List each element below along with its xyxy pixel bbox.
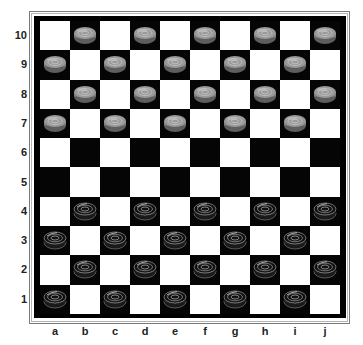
- black-piece-icon[interactable]: [103, 290, 127, 309]
- square-i9[interactable]: [280, 50, 310, 79]
- square-e4[interactable]: [160, 197, 190, 226]
- square-i2[interactable]: [280, 255, 310, 284]
- black-piece-icon[interactable]: [163, 290, 187, 309]
- square-c10[interactable]: [100, 21, 130, 50]
- square-a1[interactable]: [40, 285, 70, 314]
- black-piece-icon[interactable]: [103, 231, 127, 250]
- square-j2[interactable]: [310, 255, 340, 284]
- square-e2[interactable]: [160, 255, 190, 284]
- square-e10[interactable]: [160, 21, 190, 50]
- white-piece-icon[interactable]: [73, 85, 97, 104]
- square-h9[interactable]: [250, 50, 280, 79]
- square-j10[interactable]: [310, 21, 340, 50]
- square-f9[interactable]: [190, 50, 220, 79]
- white-piece-icon[interactable]: [193, 26, 217, 45]
- black-piece-icon[interactable]: [43, 231, 67, 250]
- white-piece-icon[interactable]: [283, 55, 307, 74]
- square-g7[interactable]: [220, 109, 250, 138]
- white-piece-icon[interactable]: [103, 55, 127, 74]
- square-a9[interactable]: [40, 50, 70, 79]
- black-piece-icon[interactable]: [133, 260, 157, 279]
- square-b7[interactable]: [70, 109, 100, 138]
- square-i8[interactable]: [280, 80, 310, 109]
- square-h7[interactable]: [250, 109, 280, 138]
- square-b1[interactable]: [70, 285, 100, 314]
- white-piece-icon[interactable]: [283, 114, 307, 133]
- square-f2[interactable]: [190, 255, 220, 284]
- white-piece-icon[interactable]: [223, 55, 247, 74]
- square-b10[interactable]: [70, 21, 100, 50]
- black-piece-icon[interactable]: [73, 260, 97, 279]
- square-j9[interactable]: [310, 50, 340, 79]
- square-j5[interactable]: [310, 167, 340, 196]
- square-f7[interactable]: [190, 109, 220, 138]
- square-h6[interactable]: [250, 138, 280, 167]
- square-e8[interactable]: [160, 80, 190, 109]
- white-piece-icon[interactable]: [163, 114, 187, 133]
- square-i6[interactable]: [280, 138, 310, 167]
- black-piece-icon[interactable]: [43, 290, 67, 309]
- black-piece-icon[interactable]: [283, 231, 307, 250]
- square-e9[interactable]: [160, 50, 190, 79]
- square-i5[interactable]: [280, 167, 310, 196]
- black-piece-icon[interactable]: [313, 260, 337, 279]
- square-c3[interactable]: [100, 226, 130, 255]
- square-g6[interactable]: [220, 138, 250, 167]
- square-h5[interactable]: [250, 167, 280, 196]
- white-piece-icon[interactable]: [163, 55, 187, 74]
- square-e6[interactable]: [160, 138, 190, 167]
- black-piece-icon[interactable]: [163, 231, 187, 250]
- white-piece-icon[interactable]: [43, 55, 67, 74]
- square-i4[interactable]: [280, 197, 310, 226]
- square-i1[interactable]: [280, 285, 310, 314]
- square-b4[interactable]: [70, 197, 100, 226]
- square-j6[interactable]: [310, 138, 340, 167]
- square-a5[interactable]: [40, 167, 70, 196]
- square-g4[interactable]: [220, 197, 250, 226]
- black-piece-icon[interactable]: [253, 260, 277, 279]
- square-h4[interactable]: [250, 197, 280, 226]
- square-e5[interactable]: [160, 167, 190, 196]
- square-a6[interactable]: [40, 138, 70, 167]
- black-piece-icon[interactable]: [313, 202, 337, 221]
- square-c9[interactable]: [100, 50, 130, 79]
- square-j8[interactable]: [310, 80, 340, 109]
- square-b2[interactable]: [70, 255, 100, 284]
- square-d4[interactable]: [130, 197, 160, 226]
- white-piece-icon[interactable]: [253, 26, 277, 45]
- square-a3[interactable]: [40, 226, 70, 255]
- square-c5[interactable]: [100, 167, 130, 196]
- white-piece-icon[interactable]: [133, 26, 157, 45]
- square-f4[interactable]: [190, 197, 220, 226]
- square-c2[interactable]: [100, 255, 130, 284]
- square-b5[interactable]: [70, 167, 100, 196]
- white-piece-icon[interactable]: [43, 114, 67, 133]
- square-b3[interactable]: [70, 226, 100, 255]
- square-c4[interactable]: [100, 197, 130, 226]
- square-f5[interactable]: [190, 167, 220, 196]
- square-g10[interactable]: [220, 21, 250, 50]
- square-j1[interactable]: [310, 285, 340, 314]
- white-piece-icon[interactable]: [313, 26, 337, 45]
- square-f6[interactable]: [190, 138, 220, 167]
- square-g3[interactable]: [220, 226, 250, 255]
- square-h3[interactable]: [250, 226, 280, 255]
- square-i3[interactable]: [280, 226, 310, 255]
- square-c6[interactable]: [100, 138, 130, 167]
- black-piece-icon[interactable]: [253, 202, 277, 221]
- black-piece-icon[interactable]: [193, 202, 217, 221]
- square-c8[interactable]: [100, 80, 130, 109]
- square-f1[interactable]: [190, 285, 220, 314]
- square-c1[interactable]: [100, 285, 130, 314]
- square-b8[interactable]: [70, 80, 100, 109]
- square-b9[interactable]: [70, 50, 100, 79]
- square-e1[interactable]: [160, 285, 190, 314]
- square-j7[interactable]: [310, 109, 340, 138]
- square-f8[interactable]: [190, 80, 220, 109]
- square-d5[interactable]: [130, 167, 160, 196]
- square-g5[interactable]: [220, 167, 250, 196]
- black-piece-icon[interactable]: [223, 290, 247, 309]
- square-f3[interactable]: [190, 226, 220, 255]
- square-c7[interactable]: [100, 109, 130, 138]
- white-piece-icon[interactable]: [73, 26, 97, 45]
